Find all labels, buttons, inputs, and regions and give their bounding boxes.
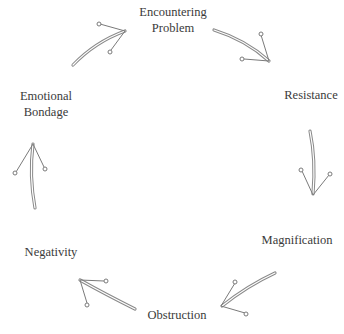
arrow-negativity-to-emotional-bondage xyxy=(13,144,47,208)
node-encountering-problem: Encountering Problem xyxy=(130,4,216,36)
node-label-line2: Problem xyxy=(130,20,216,36)
arrow-magnification-to-obstruction xyxy=(221,273,275,316)
node-label-line1: Magnification xyxy=(258,232,336,248)
node-label-line1: Resistance xyxy=(284,87,338,103)
node-magnification: Magnification xyxy=(258,232,336,248)
arrow-obstruction-to-negativity xyxy=(80,279,135,309)
cycle-diagram: Encountering Problem Resistance Magnific… xyxy=(0,0,344,334)
node-emotional-bondage: Emotional Bondage xyxy=(14,88,78,120)
node-label-line1: Negativity xyxy=(22,244,80,260)
node-label-line1: Encountering xyxy=(130,4,216,20)
node-resistance: Resistance xyxy=(284,87,338,103)
node-label-line1: Obstruction xyxy=(144,307,210,323)
arrow-encountering-problem-to-resistance xyxy=(214,30,269,61)
node-label-line2: Bondage xyxy=(14,104,78,120)
arrow-emotional-bondage-to-encountering-problem xyxy=(73,22,125,65)
node-obstruction: Obstruction xyxy=(144,307,210,323)
node-negativity: Negativity xyxy=(22,244,80,260)
node-label-line1: Emotional xyxy=(14,88,78,104)
arrow-resistance-to-magnification xyxy=(299,131,332,195)
arrows-layer xyxy=(0,0,344,334)
